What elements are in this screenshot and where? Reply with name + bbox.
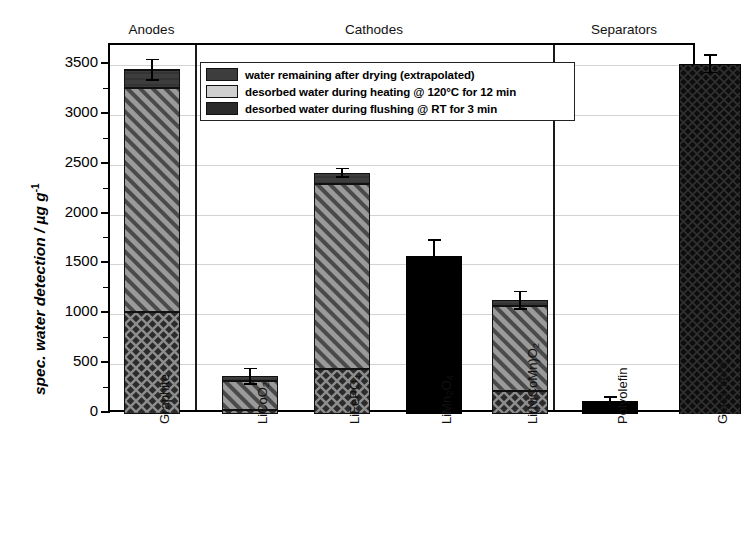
legend-label-flushing: desorbed water during flushing @ RT for … <box>245 103 497 115</box>
group-header-cathodes: Cathodes <box>195 22 553 37</box>
x-tick-label: LiMn2O4 <box>439 375 455 424</box>
error-bar <box>124 59 180 81</box>
y-tick-label: 1000 <box>30 302 98 319</box>
bar-glass-fibre[interactable] <box>679 64 741 414</box>
legend-label-remaining: water remaining after drying (extrapolat… <box>245 69 475 81</box>
group-header-anodes: Anodes <box>108 22 195 37</box>
legend-item: desorbed water during flushing @ RT for … <box>206 100 569 117</box>
legend-swatch-remaining <box>206 68 238 81</box>
bar-segment-diagonal-hatch <box>314 184 370 369</box>
gridline <box>110 165 693 166</box>
error-bar <box>679 54 741 73</box>
y-tick-label: 3500 <box>30 53 98 70</box>
y-axis-title-exponent: -1 <box>30 183 41 192</box>
legend-item: water remaining after drying (extrapolat… <box>206 66 569 83</box>
group-header-cathodes-label: Cathodes <box>345 22 403 37</box>
y-tick-label: 2500 <box>30 153 98 170</box>
bar-graphite[interactable] <box>124 70 180 414</box>
gridline <box>110 314 693 315</box>
gridline <box>110 364 693 365</box>
x-tick-label: Graphite <box>157 374 172 424</box>
error-bar <box>406 239 462 273</box>
x-tick-label: LiCoO2 <box>255 382 271 424</box>
y-tick-label: 1500 <box>30 252 98 269</box>
group-header-separators-label: Separators <box>591 22 657 37</box>
gridline <box>110 264 693 265</box>
group-header-anodes-label: Anodes <box>129 22 175 37</box>
legend-item: desorbed water during heating @ 120°C fo… <box>206 83 569 100</box>
y-tick-label: 500 <box>30 352 98 369</box>
error-bar <box>314 168 370 178</box>
x-tick-label: LiFePO4 <box>347 375 363 424</box>
legend-swatch-flushing <box>206 102 238 115</box>
group-header-separators: Separators <box>553 22 695 37</box>
plot-area: water remaining after drying (extrapolat… <box>108 43 695 412</box>
y-tick-label: 2000 <box>30 203 98 220</box>
error-bar <box>492 291 548 310</box>
x-tick-label: Polyolefin <box>615 368 630 424</box>
y-tick-label: 3000 <box>30 103 98 120</box>
x-tick-label: Li(NiCoMn)O2 <box>525 343 541 424</box>
bar-segment-diagonal-hatch <box>124 88 180 312</box>
legend-swatch-heating <box>206 85 238 98</box>
y-tick-label: 0 <box>30 402 98 419</box>
gridline <box>110 215 693 216</box>
legend-label-heating: desorbed water during heating @ 120°C fo… <box>245 86 516 98</box>
legend: water remaining after drying (extrapolat… <box>200 62 575 121</box>
x-tick-label: Glass fibre <box>715 362 730 424</box>
group-divider-anodes-cathodes <box>195 45 197 410</box>
